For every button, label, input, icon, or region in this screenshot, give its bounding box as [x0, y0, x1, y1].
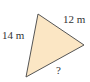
bottom-side-label: ? [56, 64, 61, 76]
right-side-label: 12 m [63, 13, 86, 25]
triangle-diagram: 14 m 12 m ? [0, 0, 90, 82]
left-side-label: 14 m [2, 29, 25, 41]
